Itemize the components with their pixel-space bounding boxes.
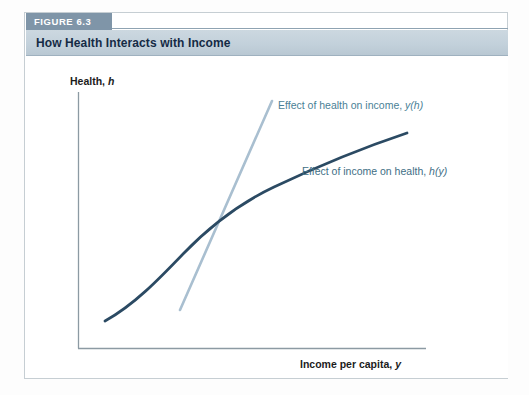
- figure-title-band: How Health Interacts with Income: [26, 30, 508, 56]
- annotation-income-on-health: Effect of income on health, h(y): [302, 166, 447, 177]
- annotation-health-on-income-text: Effect of health on income,: [278, 99, 405, 111]
- annotation-health-on-income-variable: y(h): [405, 99, 423, 111]
- figure-number-label: FIGURE 6.3: [34, 17, 91, 27]
- annotation-income-on-health-variable: h(y): [429, 165, 447, 177]
- y-axis-label-variable: h: [108, 75, 114, 87]
- figure-root: FIGURE 6.3 How Health Interacts with Inc…: [0, 0, 529, 395]
- x-axis-label-variable: y: [395, 358, 401, 370]
- x-axis-label: Income per capita, y: [300, 359, 401, 370]
- y-axis-label-text: Health,: [70, 75, 108, 87]
- health-on-income-line: [180, 101, 272, 310]
- y-axis-label: Health, h: [70, 76, 114, 87]
- x-axis-label-text: Income per capita,: [300, 358, 395, 370]
- figure-title: How Health Interacts with Income: [36, 37, 231, 49]
- annotation-income-on-health-text: Effect of income on health,: [302, 165, 429, 177]
- figure-number-tab: FIGURE 6.3: [26, 13, 112, 30]
- figure-tag-rule: [112, 28, 508, 29]
- annotation-health-on-income: Effect of health on income, y(h): [278, 100, 423, 111]
- plot-graphics: [26, 56, 508, 378]
- plot-area: Health, h Income per capita, y Effect of…: [26, 56, 508, 378]
- income-on-health-curve: [105, 133, 407, 321]
